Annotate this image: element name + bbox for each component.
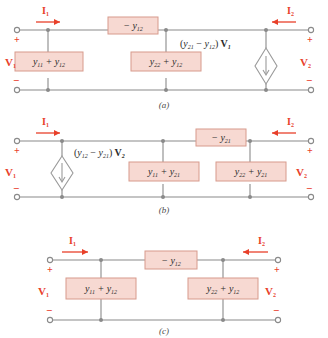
polarity-b-left-minus: − xyxy=(13,182,19,194)
circuit-b: − y21 y11 + y21 y22 + y21 (y12 − y21) V2… xyxy=(5,116,314,215)
polarity-b-right-plus: + xyxy=(307,145,313,156)
polarity-a-left-minus: − xyxy=(13,74,19,86)
polarity-c-right-minus: − xyxy=(273,304,279,316)
current-label-c-i2: I2 xyxy=(258,235,265,247)
terminal-b-in-bottom xyxy=(14,194,19,199)
current-label-b-i2: I2 xyxy=(287,116,294,128)
current-arrow-b-i2-head xyxy=(272,130,278,136)
node-c-1 xyxy=(99,258,103,262)
figure-root: − y12 y11 + y12 y22 + y12 (y21 − y12) V1… xyxy=(0,0,328,338)
voltage-label-c-v2: V2 xyxy=(265,285,276,298)
node-a-2 xyxy=(46,88,50,92)
current-arrow-c-i2 xyxy=(243,249,268,255)
terminal-b-out-bottom xyxy=(308,194,313,199)
node-a-3 xyxy=(164,28,168,32)
polarity-c-right-plus: + xyxy=(274,264,280,275)
node-c-2 xyxy=(99,318,103,322)
current-label-a-i1: I1 xyxy=(42,5,49,17)
dependent-source-b-label: (y12 − y21) V2 xyxy=(74,147,125,159)
current-arrow-b-i1-head xyxy=(54,130,60,136)
terminal-a-out-top xyxy=(308,27,313,32)
node-b-3 xyxy=(161,139,165,143)
terminal-c-in-bottom xyxy=(47,317,52,322)
voltage-label-a-v1: V1 xyxy=(5,56,16,69)
node-b-4 xyxy=(161,195,165,199)
node-a-4 xyxy=(164,88,168,92)
current-arrow-a-i1-head xyxy=(54,19,60,25)
node-c-3 xyxy=(221,258,225,262)
current-arrow-c-i1-head xyxy=(82,249,88,255)
caption-b: (b) xyxy=(159,205,170,215)
current-label-b-i1: I1 xyxy=(42,116,49,128)
terminal-c-out-top xyxy=(275,257,280,262)
terminal-b-out-top xyxy=(308,138,313,143)
terminal-a-in-top xyxy=(14,27,19,32)
current-label-c-i1: I1 xyxy=(69,235,76,247)
terminal-c-in-top xyxy=(47,257,52,262)
terminal-b-in-top xyxy=(14,138,19,143)
current-arrow-a-i1 xyxy=(36,19,60,25)
terminal-a-in-bottom xyxy=(14,87,19,92)
node-b-5 xyxy=(248,139,252,143)
dependent-source-b xyxy=(51,156,73,190)
node-a-1 xyxy=(46,28,50,32)
circuit-figure: − y12 y11 + y12 y22 + y12 (y21 − y12) V1… xyxy=(0,0,328,338)
current-arrow-a-i2-head xyxy=(272,19,278,25)
terminal-c-out-bottom xyxy=(275,317,280,322)
caption-c: (c) xyxy=(159,326,169,336)
current-arrow-b-i2 xyxy=(272,130,296,136)
polarity-c-left-minus: − xyxy=(46,304,52,316)
node-a-6 xyxy=(264,88,268,92)
caption-a: (a) xyxy=(159,100,170,110)
voltage-label-b-v2: V2 xyxy=(296,166,307,179)
voltage-label-b-v1: V1 xyxy=(5,166,16,179)
voltage-label-a-v2: V2 xyxy=(300,56,311,69)
node-b-1 xyxy=(60,139,64,143)
current-arrow-c-i1 xyxy=(62,249,88,255)
dependent-source-a-label: (y21 − y12) V1 xyxy=(180,38,231,50)
polarity-a-left-plus: + xyxy=(14,34,20,45)
terminal-a-out-bottom xyxy=(308,87,313,92)
circuit-a: − y12 y11 + y12 y22 + y12 (y21 − y12) V1… xyxy=(5,5,314,110)
current-arrow-a-i2 xyxy=(272,19,296,25)
dependent-source-a xyxy=(255,48,277,84)
current-arrow-b-i1 xyxy=(36,130,60,136)
current-arrow-c-i2-head xyxy=(243,249,249,255)
current-label-a-i2: I2 xyxy=(287,5,294,17)
node-b-6 xyxy=(248,195,252,199)
polarity-a-right-plus: + xyxy=(307,34,313,45)
polarity-b-left-plus: + xyxy=(14,145,20,156)
node-c-4 xyxy=(221,318,225,322)
node-b-2 xyxy=(60,195,64,199)
node-a-5 xyxy=(264,28,268,32)
circuit-c: − y12 y11 + y12 y22 + y12 I1 I2 + − + − … xyxy=(38,235,281,336)
polarity-b-right-minus: − xyxy=(306,182,312,194)
voltage-label-c-v1: V1 xyxy=(38,285,49,298)
polarity-a-right-minus: − xyxy=(306,74,312,86)
polarity-c-left-plus: + xyxy=(47,264,53,275)
